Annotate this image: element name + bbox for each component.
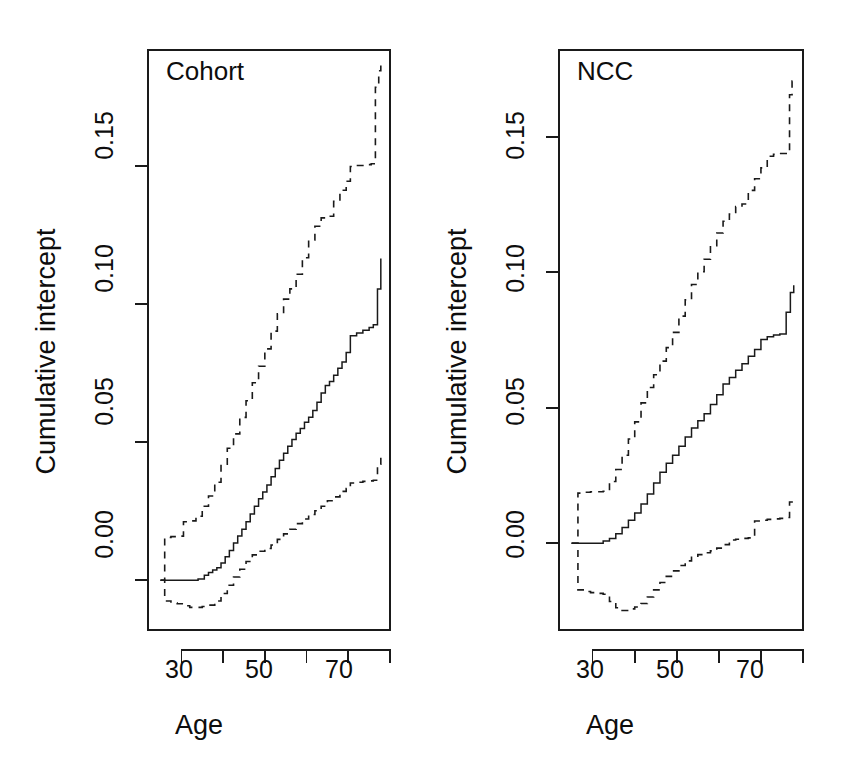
x-axis-title-cohort: Age	[139, 710, 259, 741]
x-tick-label-70: 70	[732, 655, 768, 684]
chart-panel-ncc: NCC 0.15 0.10 0.05 0.00 30 50 70 Age Cum…	[422, 0, 844, 781]
series-estimate	[572, 285, 794, 543]
plot-border	[148, 50, 390, 630]
x-tick-label-30: 30	[161, 655, 197, 684]
y-axis-title-cohort: Cumulative intercept	[31, 202, 62, 502]
series-upper-confidence-limit	[161, 60, 381, 581]
x-axis-title-ncc: Age	[550, 710, 670, 741]
panel-title-ncc: NCC	[577, 56, 633, 87]
y-tick-label-0.05: 0.05	[90, 371, 119, 433]
y-tick-label-0.15: 0.15	[501, 105, 530, 167]
y-tick-label-0.15: 0.15	[90, 105, 119, 167]
figure-canvas: Cohort 0.15 0.10 0.05 0.00 30 50 70 Age …	[0, 0, 844, 781]
y-tick-label-0.10: 0.10	[90, 238, 119, 300]
panel-title-cohort: Cohort	[166, 56, 244, 87]
series-upper-confidence-limit	[572, 77, 794, 544]
y-tick-label-0.10: 0.10	[501, 238, 530, 300]
y-tick-label-0.00: 0.00	[501, 504, 530, 566]
series-estimate	[161, 259, 381, 581]
y-tick-label-0.00: 0.00	[90, 504, 119, 566]
x-tick-label-50: 50	[241, 655, 277, 684]
x-tick-label-50: 50	[652, 655, 688, 684]
plot-area-ncc	[422, 0, 844, 781]
series-lower-confidence-limit	[572, 500, 794, 611]
x-tick-label-30: 30	[572, 655, 608, 684]
y-tick-label-0.05: 0.05	[501, 371, 530, 433]
y-axis-title-ncc: Cumulative intercept	[442, 202, 473, 502]
x-tick-label-70: 70	[321, 655, 357, 684]
plot-area-cohort	[0, 0, 422, 781]
chart-panel-cohort: Cohort 0.15 0.10 0.05 0.00 30 50 70 Age …	[0, 0, 422, 781]
